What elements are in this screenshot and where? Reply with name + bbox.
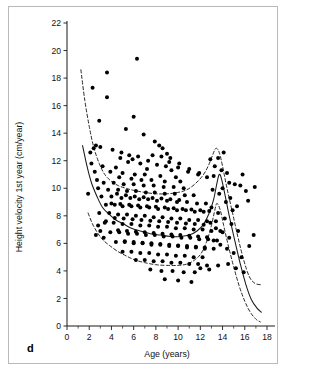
data-point [161,215,165,219]
data-point [171,269,175,273]
x-tick-label: 10 [173,332,183,342]
data-point [101,164,105,168]
x-tick-label: 6 [131,332,136,342]
data-point [134,214,138,218]
data-point [144,190,148,194]
data-point [222,150,226,154]
data-point [127,203,131,207]
data-point [143,173,147,177]
data-point [209,229,213,233]
data-point [121,171,125,175]
x-tick-label: 8 [153,332,158,342]
y-tick-label: 8 [56,211,61,221]
data-point [98,145,102,149]
data-point [178,217,182,221]
data-point [138,223,142,227]
data-point [96,186,100,190]
data-point [212,247,216,251]
data-point [178,233,182,237]
data-point [146,197,150,201]
data-point [236,229,240,233]
data-point [229,222,233,226]
data-point [207,209,211,213]
data-point [197,171,201,175]
data-point [175,221,179,225]
scatter-points [86,57,257,284]
data-point [86,192,90,196]
data-point [99,195,103,199]
data-point [145,204,149,208]
data-point [196,234,200,238]
data-point [208,221,212,225]
data-point [253,185,257,189]
data-point [88,150,92,154]
data-point [208,157,212,161]
data-point [201,255,205,259]
data-point [213,164,217,168]
data-point [172,206,176,210]
data-point [136,155,140,159]
data-point [155,199,159,203]
reference-curves [81,70,262,322]
data-point [164,164,168,168]
y-tick-label: 22 [51,18,61,28]
data-point [211,188,215,192]
data-point [192,255,196,259]
data-point [127,153,131,157]
data-point [154,205,158,209]
data-point [93,170,97,174]
data-point [165,225,169,229]
data-point [129,222,133,226]
data-point [143,214,147,218]
data-point [96,223,100,227]
data-point [106,188,110,192]
data-point [151,196,155,200]
data-point [108,230,112,234]
data-point [187,218,191,222]
data-point [163,192,167,196]
data-point [141,241,145,245]
data-point [167,160,171,164]
data-point [116,228,120,232]
data-point [175,208,179,212]
data-point [113,216,117,220]
data-point [218,243,222,247]
data-point [163,206,167,210]
data-point [184,221,188,225]
data-point [187,234,191,238]
data-point [168,197,172,201]
data-point [137,197,141,201]
data-point [192,228,196,232]
data-point [189,208,193,212]
data-point [238,184,242,188]
data-point [176,166,180,170]
x-axis-title: Age (years) [144,349,190,359]
data-point [134,189,138,193]
data-point [163,179,167,183]
data-point [167,243,171,247]
data-point [104,219,108,223]
data-point [225,171,229,175]
data-point [156,225,160,229]
y-tick-label: 0 [56,321,61,331]
data-point [122,217,126,221]
data-point [134,258,138,262]
data-point [128,196,132,200]
data-point [158,174,162,178]
x-tick-label: 4 [109,332,114,342]
data-point [89,161,93,165]
data-point [165,252,169,256]
y-tick-label: 6 [56,238,61,248]
data-point [177,161,181,165]
data-point [155,163,159,167]
data-point [142,133,146,137]
data-point [116,188,120,192]
data-point [185,244,189,248]
data-point [193,222,197,226]
data-point [114,166,118,170]
data-point [131,217,135,221]
data-point [134,230,138,234]
data-point [203,246,207,250]
data-point [133,195,137,199]
data-point [196,262,200,266]
